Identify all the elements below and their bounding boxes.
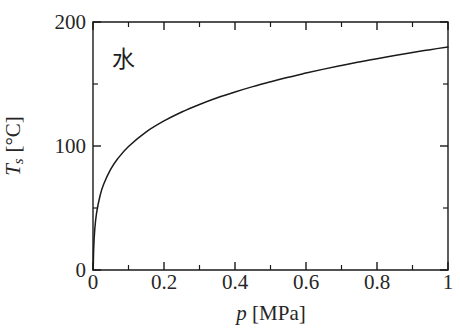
x-axis-unit: [MPa]: [252, 301, 306, 325]
x-axis-symbol: p: [236, 301, 247, 325]
x-tick-label-0: 0: [88, 272, 99, 293]
y-axis-title: Ts [°C]: [1, 116, 27, 176]
x-tick-label-1: 1: [443, 272, 454, 293]
x-tick-label-0-2: 0.2: [151, 272, 177, 293]
y-tick-label-0: 0: [76, 260, 87, 281]
y-tick-label-100: 100: [55, 136, 87, 157]
y-axis-symbol: T: [1, 164, 25, 176]
x-tick-label-0-4: 0.4: [222, 272, 248, 293]
y-axis-subscript: s: [10, 158, 26, 164]
x-tick-label-0-8: 0.8: [364, 272, 390, 293]
x-axis-title: p [MPa]: [236, 301, 305, 326]
x-tick-label-0-6: 0.6: [293, 272, 319, 293]
annotation-water-label: 水: [112, 40, 135, 74]
y-tick-label-200: 200: [55, 12, 87, 33]
y-axis-unit: [°C]: [1, 116, 25, 152]
chart-figure-page: 0 0.2 0.4 0.6 0.8 1 0 100 200 p [MPa] Ts…: [0, 0, 460, 334]
